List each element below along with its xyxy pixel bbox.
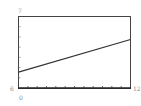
plot-frame <box>19 17 131 89</box>
data-line <box>19 39 131 72</box>
plot-area <box>0 0 141 106</box>
